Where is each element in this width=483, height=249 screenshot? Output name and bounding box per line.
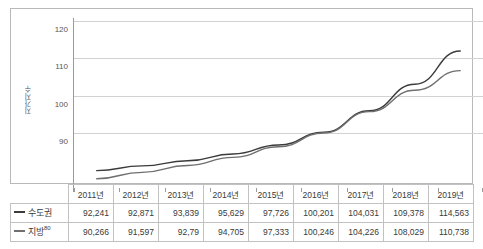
table-cell: 95,629 — [204, 204, 249, 223]
y-tick-90: 90 — [59, 137, 68, 146]
series-line-수도권 — [97, 51, 461, 171]
table-header-row: 2011년 2012년 2013년 2014년 2015년 2016년 2017… — [11, 185, 474, 204]
table-cell: 92,79 — [159, 223, 204, 242]
table-header-2017: 2017년 — [339, 185, 384, 204]
table-header-2013: 2013년 — [159, 185, 204, 204]
table-header-2014: 2014년 — [204, 185, 249, 204]
table-cell: 100,246 — [294, 223, 339, 242]
y-tick-110: 110 — [55, 62, 68, 71]
legend-item-수도권: 수도권 — [11, 204, 69, 223]
data-table: 2011년 2012년 2013년 2014년 2015년 2016년 2017… — [10, 184, 474, 242]
table-cell: 100,201 — [294, 204, 339, 223]
y-tick-100: 100 — [55, 100, 68, 109]
series-lines — [74, 18, 483, 192]
chart-container: 지가지수 120 110 100 90 — [0, 0, 483, 249]
table-cell: 91,597 — [114, 223, 159, 242]
table-cell: 110,738 — [429, 223, 474, 242]
table-header-2019: 2019년 — [429, 185, 474, 204]
table-cell: 108,029 — [384, 223, 429, 242]
table-cell: 97,333 — [249, 223, 294, 242]
table-corner-cell — [11, 185, 69, 204]
chart-plot-frame: 지가지수 120 110 100 90 — [10, 8, 473, 184]
table-cell: 93,839 — [159, 204, 204, 223]
table-row: 지방80 90,266 91,597 92,79 94,705 97,333 1… — [11, 223, 474, 242]
table-cell: 92,871 — [114, 204, 159, 223]
y-axis-tick-labels: 120 110 100 90 — [41, 17, 71, 193]
plot-area — [74, 18, 483, 192]
table-header-2011: 2011년 — [69, 185, 114, 204]
table-header-2012: 2012년 — [114, 185, 159, 204]
table-cell: 104,031 — [339, 204, 384, 223]
table-cell: 114,563 — [429, 204, 474, 223]
legend-item-지방: 지방80 — [11, 223, 69, 242]
y-tick-120: 120 — [55, 25, 68, 34]
table-cell: 104,226 — [339, 223, 384, 242]
table-cell: 109,378 — [384, 204, 429, 223]
y-axis-title: 지가지수 — [25, 69, 39, 131]
legend-line-icon — [14, 211, 25, 213]
legend-superscript: 80 — [44, 225, 51, 231]
table-cell: 92,241 — [69, 204, 114, 223]
legend-label: 지방 — [28, 228, 44, 238]
table-cell: 90,266 — [69, 223, 114, 242]
table-header-2015: 2015년 — [249, 185, 294, 204]
table-cell: 97,726 — [249, 204, 294, 223]
table-row: 수도권 92,241 92,871 93,839 95,629 97,726 1… — [11, 204, 474, 223]
table-header-2016: 2016년 — [294, 185, 339, 204]
table-header-2018: 2018년 — [384, 185, 429, 204]
table-cell: 94,705 — [204, 223, 249, 242]
series-line-지방 — [97, 71, 461, 179]
legend-line-icon — [14, 230, 25, 232]
legend-label: 수도권 — [28, 209, 52, 219]
